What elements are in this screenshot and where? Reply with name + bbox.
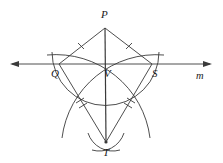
line-label-m: m (196, 71, 204, 82)
point-label-q: Q (51, 68, 59, 79)
segment-qt (59, 64, 106, 142)
geometry-figure: P Q V S T m (0, 0, 223, 163)
arc-centered-at-q (47, 55, 150, 138)
segment-st (106, 64, 152, 142)
geometry-drawing (0, 0, 223, 163)
line-m-right-arrowhead (203, 61, 212, 67)
segment-pt (105, 28, 106, 142)
point-label-v: V (104, 68, 111, 79)
point-marker-t (104, 140, 107, 143)
point-label-p: P (101, 9, 108, 20)
line-m-left-arrowhead (10, 61, 19, 67)
tick-mark-st-2 (124, 103, 132, 108)
arc-centered-at-s (62, 55, 164, 138)
point-label-s: S (152, 68, 158, 79)
point-label-t: T (103, 147, 109, 158)
